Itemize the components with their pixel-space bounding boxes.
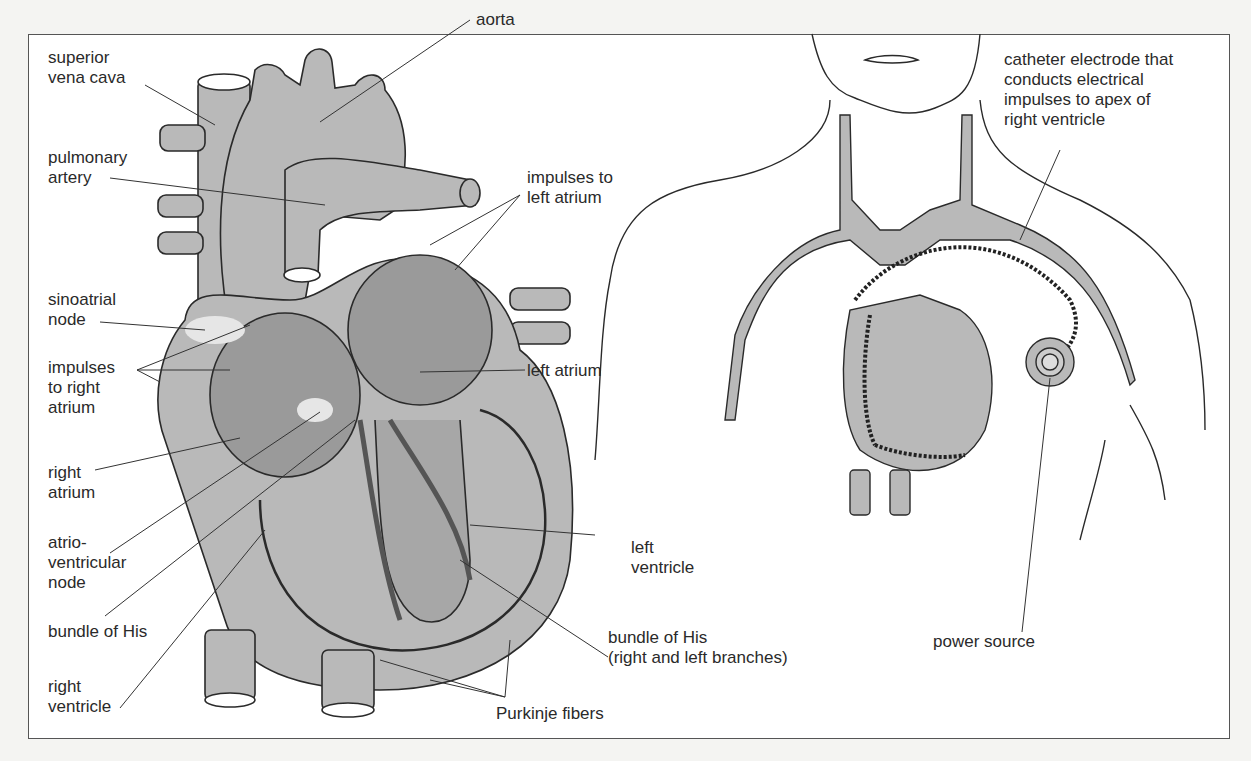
label-aorta: aorta <box>476 10 515 30</box>
sinoatrial-node <box>185 316 245 344</box>
label-right-atrium: right atrium <box>48 463 95 503</box>
label-impulses-right-atrium: impulses to right atrium <box>48 358 115 418</box>
label-power-source: power source <box>933 632 1035 652</box>
label-sinoatrial-node: sinoatrial node <box>48 290 116 330</box>
left-shoulder <box>595 100 830 460</box>
chin-outline <box>812 34 980 113</box>
label-impulses-left-atrium: impulses to left atrium <box>527 168 613 208</box>
heart-diagram <box>158 49 573 717</box>
pacemaker-heart <box>843 295 991 515</box>
label-left-ventricle: left ventricle <box>631 538 694 578</box>
label-right-ventricle: right ventricle <box>48 677 111 717</box>
left-atrium-chamber <box>348 255 492 405</box>
label-left-atrium: left atrium <box>527 361 602 381</box>
label-catheter-electrode: catheter electrode that conducts electri… <box>1004 50 1173 130</box>
right-shoulder <box>980 100 1205 430</box>
label-pulmonary-artery: pulmonary artery <box>48 148 127 188</box>
label-purkinje-fibers: Purkinje fibers <box>496 704 604 724</box>
leader-lines-right <box>1020 150 1060 632</box>
label-av-node: atrio- ventricular node <box>48 533 126 593</box>
av-node <box>297 398 333 422</box>
label-superior-vena-cava: superior vena cava <box>48 48 126 88</box>
lips <box>865 56 918 64</box>
label-bundle-of-his: bundle of His <box>48 622 147 642</box>
label-bundle-branches: bundle of His (right and left branches) <box>608 628 788 668</box>
